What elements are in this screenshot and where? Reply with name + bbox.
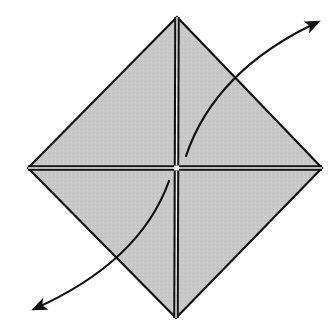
diagram-canvas <box>0 0 335 332</box>
crease-lines <box>28 17 322 318</box>
crease-intersection <box>174 166 179 171</box>
origami-diagram <box>0 0 335 332</box>
